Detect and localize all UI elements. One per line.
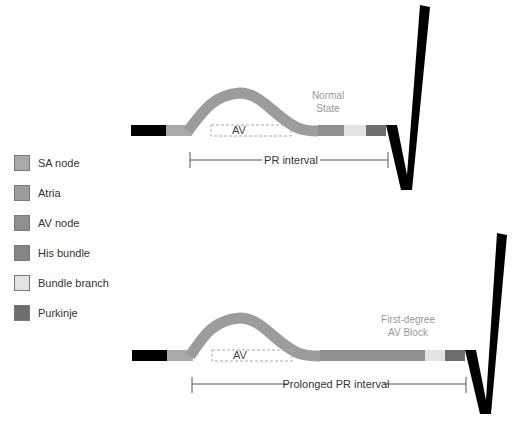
purkinje-segment	[445, 350, 465, 361]
block-strip: AV First-degree AV Block Prolonged PR in…	[132, 233, 507, 414]
qrs-spike	[465, 233, 507, 414]
swatch-av-node	[14, 215, 30, 231]
baseline-black	[131, 125, 166, 136]
legend-label: Purkinje	[38, 307, 78, 319]
state-label: First-degree	[381, 314, 435, 325]
legend-label: His bundle	[38, 247, 90, 259]
state-label-2: AV Block	[388, 327, 429, 338]
legend: SA node Atria AV node His bundle Bundle …	[14, 148, 109, 328]
legend-label: Atria	[38, 187, 61, 199]
interval-label: PR interval	[264, 154, 318, 166]
normal-strip: AV Normal State PR interval	[131, 5, 430, 190]
swatch-atria	[14, 185, 30, 201]
bundle-segment	[344, 125, 366, 136]
baseline-black	[132, 350, 167, 361]
legend-item-sa-node: SA node	[14, 148, 109, 178]
interval-label: Prolonged PR interval	[282, 378, 389, 390]
swatch-purkinje	[14, 305, 30, 321]
bundle-segment	[425, 350, 445, 361]
av-segment	[318, 125, 344, 136]
purkinje-segment	[366, 125, 386, 136]
swatch-his-bundle	[14, 245, 30, 261]
legend-item-purkinje: Purkinje	[14, 298, 109, 328]
legend-item-atria: Atria	[14, 178, 109, 208]
legend-item-av-node: AV node	[14, 208, 109, 238]
state-label: Normal	[312, 90, 344, 101]
av-box	[211, 125, 291, 136]
legend-item-bundle-branch: Bundle branch	[14, 268, 109, 298]
qrs-spike	[386, 5, 430, 190]
swatch-sa-node	[14, 155, 30, 171]
av-segment	[320, 350, 425, 361]
legend-label: AV node	[38, 217, 79, 229]
av-label: AV	[233, 349, 248, 361]
state-label-2: State	[316, 103, 340, 114]
swatch-bundle-branch	[14, 275, 30, 291]
legend-label: SA node	[38, 157, 80, 169]
av-label: AV	[232, 124, 247, 136]
legend-label: Bundle branch	[38, 277, 109, 289]
legend-item-his-bundle: His bundle	[14, 238, 109, 268]
av-box	[212, 350, 292, 361]
